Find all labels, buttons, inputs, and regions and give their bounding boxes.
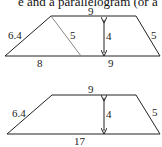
- left-side-label: 6.4: [8, 29, 22, 41]
- trapezoid-diagrams: 9 6.4 5 4 5 8 9 9 6.4 4 5 17: [0, 0, 162, 147]
- bottom-trapezoid: 9 6.4 4 5 17: [7, 83, 160, 147]
- top-base-label: 9: [88, 5, 94, 17]
- height-label: 4: [106, 30, 112, 42]
- bottom-right-label: 9: [108, 57, 114, 69]
- diagonal-label: 5: [70, 29, 76, 41]
- right-side-label: 5: [151, 29, 157, 41]
- height-label: 4: [106, 108, 112, 120]
- dividing-line: [51, 16, 81, 56]
- bottom-left-label: 8: [37, 57, 43, 69]
- top-base-label: 9: [88, 83, 94, 95]
- bottom-base-label: 17: [74, 135, 86, 147]
- right-side-label: 5: [152, 106, 158, 118]
- top-trapezoid: 9 6.4 5 4 5 8 9: [5, 5, 160, 69]
- left-side-label: 6.4: [12, 107, 26, 119]
